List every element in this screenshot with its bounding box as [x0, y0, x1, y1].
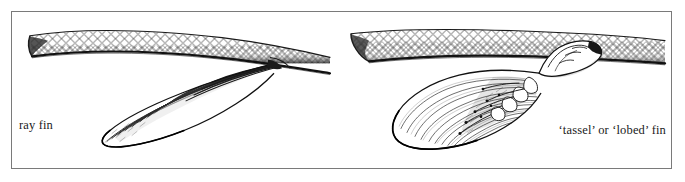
ray-fin-illustration	[12, 12, 342, 168]
ray-fin-blade	[102, 63, 277, 147]
lobed-fin-stalk	[539, 41, 602, 78]
caption-lobed-fin: ‘tassel’ or ‘lobed’ fin	[559, 124, 666, 137]
lobed-fin-body	[343, 12, 673, 168]
figure-root: ray fin	[0, 0, 685, 182]
lobed-fin-blade	[393, 70, 541, 149]
panel-ray-fin: ray fin	[12, 12, 342, 168]
lobed-fin-skeleton-nodes	[459, 88, 501, 135]
lobed-fin-illustration	[343, 12, 673, 168]
ray-fin-base-junction	[268, 57, 290, 69]
ray-fin-body	[12, 12, 342, 168]
lobed-fin-skeleton	[459, 76, 538, 134]
panel-lobed-fin: ‘tassel’ or ‘lobed’ fin	[343, 12, 673, 168]
caption-ray-fin: ray fin	[19, 119, 53, 132]
figure-frame-border: ray fin	[11, 11, 672, 169]
